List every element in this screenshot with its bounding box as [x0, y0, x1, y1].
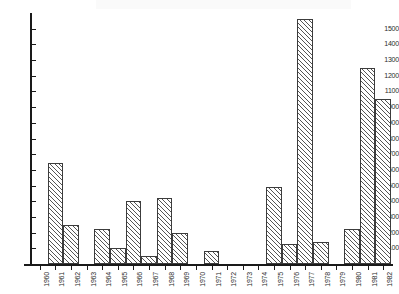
x-axis-tick-label: 1982 [386, 272, 393, 287]
x-axis-tick-label: 1979 [339, 272, 346, 287]
y-axis-tick [32, 44, 36, 45]
bar [126, 201, 142, 264]
bar [344, 229, 360, 264]
x-axis-tick-label: 1970 [199, 272, 206, 287]
y-axis-tick [32, 170, 36, 171]
bar [313, 242, 329, 264]
x-axis-tick-label: 1964 [105, 272, 112, 287]
x-axis-tick [368, 266, 369, 270]
x-axis-tick [274, 266, 275, 270]
x-axis-tick-label: 1969 [183, 272, 190, 287]
bar [110, 248, 126, 264]
y-axis-tick [32, 29, 36, 30]
x-axis-tick [212, 266, 213, 270]
bar [297, 19, 313, 264]
bar [172, 233, 188, 264]
y-axis-tick [32, 139, 36, 140]
x-axis-tick [352, 266, 353, 270]
x-axis-tick-label: 1977 [308, 272, 315, 287]
y-axis-line [30, 13, 32, 266]
bar [141, 256, 157, 264]
y-axis-tick [32, 217, 36, 218]
x-axis-tick-label: 1973 [246, 272, 253, 287]
x-axis-line [24, 264, 393, 266]
plot-area: 1002003004005006007008009001000110012001… [0, 0, 399, 294]
bar [48, 163, 64, 264]
bar [157, 198, 173, 264]
y-axis-tick [32, 123, 36, 124]
y-axis-tick [32, 186, 36, 187]
x-axis-tick [118, 266, 119, 270]
y-axis-tick [32, 107, 36, 108]
x-axis-tick [87, 266, 88, 270]
bar [282, 244, 298, 264]
y-axis-tick [32, 248, 36, 249]
bar [204, 251, 220, 264]
y-axis-tick-label: 1300 [371, 56, 399, 63]
x-axis-tick-label: 1971 [215, 272, 222, 287]
bar [63, 225, 79, 264]
x-axis-tick-label: 1978 [324, 272, 331, 287]
x-axis-tick [180, 266, 181, 270]
x-axis-tick [290, 266, 291, 270]
chart-screenshot: 1002003004005006007008009001000110012001… [0, 0, 399, 294]
x-axis-tick [321, 266, 322, 270]
y-axis-tick [32, 233, 36, 234]
bar [375, 99, 391, 264]
x-axis-tick-label: 1961 [58, 272, 65, 287]
x-axis-tick-label: 1976 [293, 272, 300, 287]
bar [266, 187, 282, 264]
x-axis-tick [40, 266, 41, 270]
x-axis-tick-label: 1967 [152, 272, 159, 287]
y-axis-tick [32, 201, 36, 202]
x-axis-tick-label: 1965 [121, 272, 128, 287]
x-axis-tick [165, 266, 166, 270]
y-axis-tick [32, 154, 36, 155]
x-axis-tick-label: 1968 [168, 272, 175, 287]
x-axis-tick-label: 1981 [371, 272, 378, 287]
x-axis-tick-label: 1974 [261, 272, 268, 287]
x-axis-tick-label: 1972 [230, 272, 237, 287]
x-axis-tick [336, 266, 337, 270]
bar [360, 68, 376, 264]
x-axis-tick [102, 266, 103, 270]
x-axis-tick [149, 266, 150, 270]
x-axis-tick [305, 266, 306, 270]
x-axis-tick-label: 1962 [74, 272, 81, 287]
x-axis-tick-label: 1966 [136, 272, 143, 287]
x-axis-tick [55, 266, 56, 270]
x-axis-tick [243, 266, 244, 270]
x-axis-tick-label: 1963 [90, 272, 97, 287]
y-axis-tick [32, 76, 36, 77]
x-axis-tick-label: 1975 [277, 272, 284, 287]
y-axis-tick-label: 1500 [371, 25, 399, 32]
y-axis-tick-label: 1400 [371, 40, 399, 47]
x-axis-tick [227, 266, 228, 270]
x-axis-tick [133, 266, 134, 270]
x-axis-tick [71, 266, 72, 270]
bar [94, 229, 110, 264]
x-axis-tick-label: 1960 [43, 272, 50, 287]
x-axis-tick [196, 266, 197, 270]
x-axis-tick-label: 1980 [355, 272, 362, 287]
y-axis-tick [32, 91, 36, 92]
y-axis-tick [32, 60, 36, 61]
x-axis-tick [383, 266, 384, 270]
x-axis-tick [258, 266, 259, 270]
